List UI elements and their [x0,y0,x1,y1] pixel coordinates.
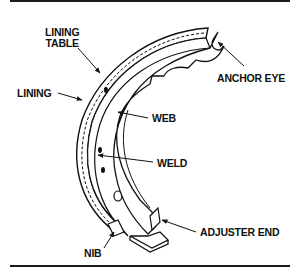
label-lining: LINING [17,88,51,99]
frame-bottom-rule [10,265,290,267]
leader-anchor-eye [218,42,244,66]
leader-nib [104,232,114,248]
leader-adjuster-end [162,220,196,232]
leader-lining-table [78,48,100,73]
leader-lining [58,93,82,100]
label-nib: NIB [84,248,101,259]
label-web: WEB [152,113,176,124]
label-lining-table-line2: TABLE [45,38,79,49]
nib [108,220,124,236]
label-adjuster-end: ADJUSTER END [200,227,279,238]
label-weld: WELD [157,158,187,169]
label-anchor-eye: ANCHOR EYE [217,73,285,84]
label-lining-table: LINING TABLE [45,27,79,49]
